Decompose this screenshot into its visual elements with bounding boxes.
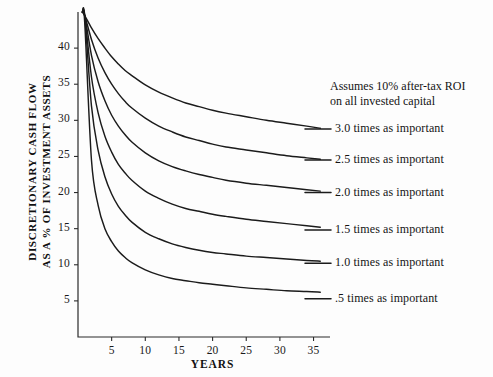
curve-1 [82,12,320,159]
series-label-3: 1.5 times as important [335,222,444,237]
series-label-5: .5 times as important [335,291,438,306]
curve-3 [82,10,320,227]
y-axis-title-line-2: AS A % OF INVESTMENT ASSETS [39,47,53,297]
series-label-4: 1.0 times as important [335,255,444,270]
x-tick-label-10: 10 [132,344,158,356]
y-axis-title: DISCRETIONARY CASH FLOW AS A % OF INVEST… [26,47,53,297]
x-tick-label-25: 25 [233,344,259,356]
axis-ticks [74,48,314,341]
y-axis-title-line-1: DISCRETIONARY CASH FLOW [26,47,40,297]
x-tick-label-30: 30 [267,344,293,356]
label-leader-lines [305,129,331,299]
series-label-2: 2.0 times as important [335,185,444,200]
curve-0 [82,12,320,128]
data-curves [82,8,320,292]
curve-5 [82,9,320,292]
assumption-note: Assumes 10% after-tax ROI on all investe… [330,79,465,108]
x-axis-title: YEARS [153,358,273,370]
x-tick-label-20: 20 [200,344,226,356]
series-label-1: 2.5 times as important [335,152,444,167]
chart-figure: 510152025303540 5101520253035 3.0 times … [0,0,493,377]
assumption-note-line-2: on all invested capital [330,94,465,109]
assumption-note-line-1: Assumes 10% after-tax ROI [330,79,465,94]
series-label-0: 3.0 times as important [335,121,444,136]
x-tick-label-15: 15 [166,344,192,356]
x-tick-label-35: 35 [301,344,327,356]
x-tick-label-5: 5 [99,344,125,356]
